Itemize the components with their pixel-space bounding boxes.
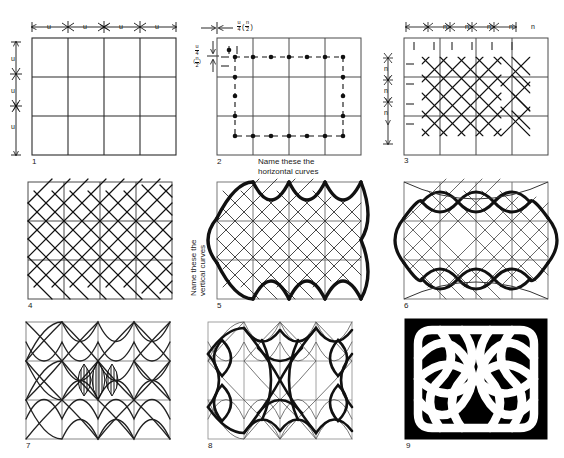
panel-1-drawing — [0, 8, 188, 168]
panel-5-drawing — [185, 178, 375, 313]
panel-1: u u u u u u u 1 — [0, 8, 188, 168]
dim-label-n-top-3: n — [487, 23, 491, 30]
panel-number-5: 5 — [217, 302, 221, 310]
dim-label-n-left-1: n — [384, 65, 388, 72]
dim-label-u-left-2: u — [11, 87, 15, 94]
frac-n-over-2-top: n2 — [245, 20, 249, 32]
panel-6: 6 — [372, 178, 562, 313]
dim-label-n-top-5: n — [531, 23, 535, 30]
panel-number-7: 7 — [26, 442, 30, 450]
panel-6-drawing — [372, 178, 562, 313]
frac-u-over-4-top: u4 — [237, 20, 241, 32]
panel-3: n n n n n n n n 3 — [372, 8, 564, 168]
frac-n-over-2-left: n2 — [195, 56, 199, 68]
paren-open-top: ( — [242, 23, 244, 30]
panel-5: Name these the vertical curves — [185, 178, 375, 313]
dim-label-n-top-2: n — [465, 23, 469, 30]
dim-label-u-left-3: u — [11, 123, 15, 130]
figure-sheet: u u u u u u u 1 — [0, 0, 564, 458]
panel-3-drawing — [372, 8, 564, 168]
dim-label-u-top-1: u — [47, 23, 51, 30]
panel-9-drawing — [400, 318, 564, 456]
panel-number-2: 2 — [217, 158, 221, 166]
dim-label-u4-n2-top: u4 ( n2 ) — [237, 20, 253, 32]
dim-label-u-left-1: u — [11, 55, 15, 62]
panel-4-drawing — [14, 178, 194, 313]
dim-label-n-left-3: n — [384, 109, 388, 116]
panel-8-drawing — [200, 318, 375, 456]
panel-number-6: 6 — [404, 302, 408, 310]
caption-horizontal-line1: Name these the — [258, 157, 314, 167]
panel-number-1: 1 — [32, 158, 36, 166]
panel-number-3: 3 — [404, 157, 408, 165]
panel-7-drawing — [14, 318, 199, 456]
panel-9: 9 — [400, 318, 564, 456]
dim-label-n-left-2: n — [384, 87, 388, 94]
dim-label-u-top-4: u — [155, 23, 159, 30]
panel-2: u4 ( n2 ) u4 (n2) 2 Name these the horiz… — [185, 8, 375, 183]
panel-7: 7 — [14, 318, 199, 456]
caption-horizontal-line2: horizontal curves — [258, 167, 318, 177]
dim-label-u4-n2-left: u4 (n2) — [187, 44, 207, 68]
dim-label-u-top-3: u — [119, 23, 123, 30]
panel-number-4: 4 — [28, 302, 32, 310]
panel-4: 4 — [14, 178, 194, 313]
paren-n-over-2-left: (n2) — [187, 56, 207, 68]
panel-8: 8 — [200, 318, 375, 456]
dim-label-n-top-1: n — [443, 23, 447, 30]
panel-number-8: 8 — [208, 442, 212, 450]
panel-number-9: 9 — [406, 442, 410, 450]
paren-close-top: ) — [250, 23, 252, 30]
dim-label-n-top-4: n — [509, 23, 513, 30]
dim-label-u-top-2: u — [83, 23, 87, 30]
